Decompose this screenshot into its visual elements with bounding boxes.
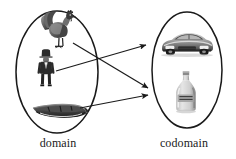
figure-canvas: domain codomain bbox=[0, 0, 236, 159]
arrow-boat-to-bottle bbox=[80, 95, 148, 108]
domain-label: domain bbox=[0, 136, 116, 151]
man-in-hat-image bbox=[39, 49, 54, 86]
boat-image bbox=[33, 104, 88, 117]
arrow-rooster-to-bottle bbox=[73, 43, 148, 88]
mapping-arrows bbox=[56, 43, 148, 108]
codomain-label: codomain bbox=[132, 136, 236, 151]
rooster-image bbox=[41, 10, 76, 48]
car-image bbox=[161, 33, 213, 57]
arrow-man-to-car bbox=[56, 45, 146, 71]
bottle-image bbox=[176, 71, 196, 113]
